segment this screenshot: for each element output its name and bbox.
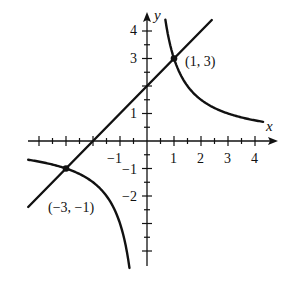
- y-axis-label: y: [152, 7, 161, 23]
- intersection-point-neg3-neg1: [63, 165, 70, 172]
- line-y-equals-x-plus-2: [28, 20, 212, 207]
- y-tick-label-3: 3: [130, 51, 137, 66]
- point-label-neg3-neg1: (−3, −1): [48, 200, 94, 216]
- x-tick-label-neg1: −1: [107, 151, 122, 166]
- x-tick-label-4: 4: [251, 151, 258, 166]
- axes: [28, 18, 272, 266]
- x-tick-label-1: 1: [170, 151, 177, 166]
- x-tick-label-2: 2: [197, 151, 204, 166]
- hyperbola-right-branch: [165, 20, 263, 122]
- x-tick-label-3: 3: [224, 151, 231, 166]
- y-tick-label-neg2: −2: [122, 189, 137, 204]
- intersection-point-1-3: [171, 55, 178, 62]
- x-axis-label: x: [265, 118, 273, 134]
- point-label-1-3: (1, 3): [185, 54, 216, 70]
- y-tick-label-4: 4: [130, 23, 137, 38]
- y-tick-label-neg1: −1: [122, 162, 137, 177]
- y-tick-label-1: 1: [130, 106, 137, 121]
- graph: x y −1 1 2 3 4 4 3 1 −1 −2 (1, 3) (−3, −…: [0, 0, 283, 287]
